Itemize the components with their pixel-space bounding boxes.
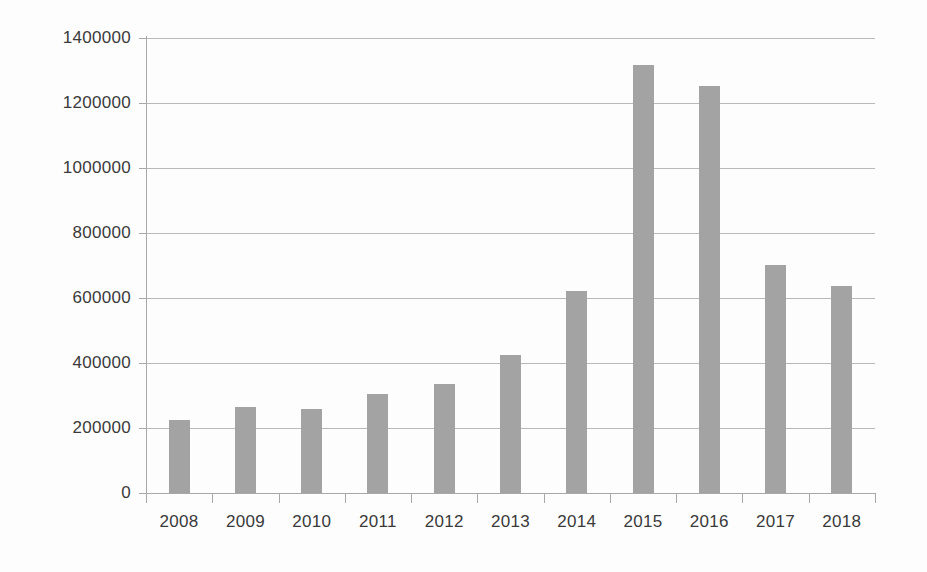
x-tick-mark bbox=[742, 493, 743, 503]
y-axis-tick-label: 800000 bbox=[11, 223, 131, 243]
x-axis-tick-label: 2015 bbox=[610, 512, 676, 532]
x-tick-mark bbox=[809, 493, 810, 503]
bar-chart: 0200000400000600000800000100000012000001… bbox=[0, 0, 927, 572]
x-tick-mark bbox=[345, 493, 346, 503]
x-tick-mark bbox=[875, 493, 876, 503]
bar-2016 bbox=[699, 86, 720, 493]
bar-2013 bbox=[500, 355, 521, 493]
x-axis-tick-label: 2010 bbox=[279, 512, 345, 532]
y-axis-tick-label: 400000 bbox=[11, 353, 131, 373]
bar-2015 bbox=[633, 65, 654, 493]
x-axis-tick-label: 2011 bbox=[345, 512, 411, 532]
x-tick-mark bbox=[411, 493, 412, 503]
x-tick-mark bbox=[279, 493, 280, 503]
bar-2011 bbox=[367, 394, 388, 493]
x-axis-tick-label: 2013 bbox=[478, 512, 544, 532]
bar-2017 bbox=[765, 265, 786, 493]
bar-2014 bbox=[566, 291, 587, 493]
bar-2009 bbox=[235, 407, 256, 493]
x-tick-mark bbox=[676, 493, 677, 503]
bars-group bbox=[146, 38, 875, 493]
y-tick-mark bbox=[139, 233, 146, 234]
x-tick-mark bbox=[146, 493, 147, 503]
x-axis-tick-label: 2016 bbox=[676, 512, 742, 532]
y-tick-mark bbox=[139, 363, 146, 364]
y-tick-mark bbox=[139, 168, 146, 169]
bar-2018 bbox=[831, 286, 852, 493]
x-axis-tick-label: 2017 bbox=[743, 512, 809, 532]
y-axis-tick-label: 1400000 bbox=[11, 28, 131, 48]
bar-2012 bbox=[434, 384, 455, 493]
y-axis-tick-label: 0 bbox=[11, 483, 131, 503]
x-tick-mark bbox=[544, 493, 545, 503]
y-axis-tick-label: 600000 bbox=[11, 288, 131, 308]
bar-2008 bbox=[169, 420, 190, 493]
x-tick-mark bbox=[212, 493, 213, 503]
y-tick-mark bbox=[139, 103, 146, 104]
x-axis-tick-label: 2009 bbox=[212, 512, 278, 532]
bar-2010 bbox=[301, 409, 322, 493]
x-axis-tick-labels: 2008200920102011201220132014201520162017… bbox=[146, 512, 875, 542]
x-axis-tick-label: 2008 bbox=[146, 512, 212, 532]
x-tick-marks-group bbox=[146, 493, 875, 505]
x-tick-mark bbox=[610, 493, 611, 503]
y-axis-tick-label: 200000 bbox=[11, 418, 131, 438]
y-tick-mark bbox=[139, 428, 146, 429]
y-axis-tick-label: 1200000 bbox=[11, 93, 131, 113]
y-axis-tick-labels: 0200000400000600000800000100000012000001… bbox=[0, 0, 131, 572]
x-axis-tick-label: 2014 bbox=[544, 512, 610, 532]
y-tick-mark bbox=[139, 298, 146, 299]
y-tick-mark bbox=[139, 493, 146, 494]
x-axis-tick-label: 2012 bbox=[411, 512, 477, 532]
x-tick-mark bbox=[477, 493, 478, 503]
y-tick-mark bbox=[139, 38, 146, 39]
x-axis-tick-label: 2018 bbox=[809, 512, 875, 532]
y-axis-tick-label: 1000000 bbox=[11, 158, 131, 178]
